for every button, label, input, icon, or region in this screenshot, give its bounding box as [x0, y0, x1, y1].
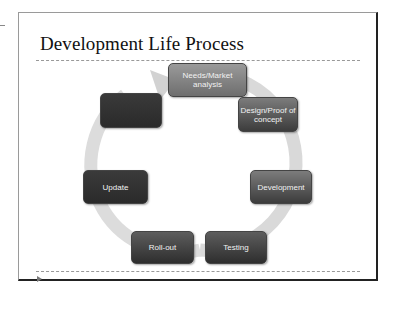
step-label: Roll-out	[149, 243, 177, 252]
step-blank[interactable]	[100, 93, 162, 128]
step-label: Update	[103, 183, 129, 192]
step-label: Testing	[223, 243, 248, 252]
step-needs-market-analysis[interactable]: Needs/Market analysis	[168, 63, 247, 97]
step-label: Needs/Market analysis	[169, 71, 246, 89]
footer-divider	[36, 271, 360, 272]
step-testing[interactable]: Testing	[205, 231, 267, 264]
play-triangle-icon[interactable]	[37, 276, 42, 282]
cycle-arrow	[0, 0, 396, 309]
step-roll-out[interactable]: Roll-out	[131, 231, 194, 264]
step-label: Development	[257, 183, 304, 192]
step-update[interactable]: Update	[83, 170, 148, 204]
step-development[interactable]: Development	[250, 170, 312, 204]
step-design-proof-of-concept[interactable]: Design/Proof of concept	[238, 97, 298, 132]
step-label: Design/Proof of concept	[239, 106, 297, 124]
